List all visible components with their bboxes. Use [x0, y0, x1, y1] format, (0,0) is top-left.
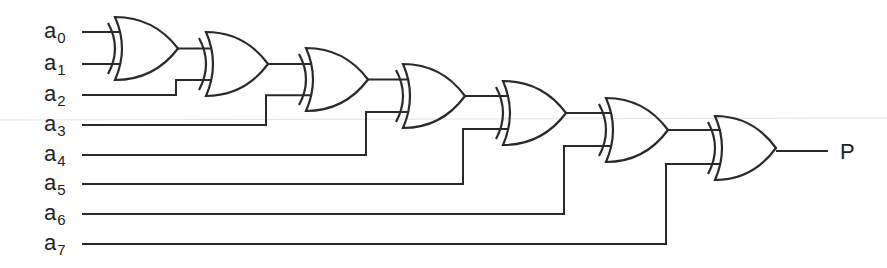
xor-gate-body — [715, 116, 776, 180]
input-subscript: 3 — [57, 122, 65, 139]
wire-a7 — [82, 164, 721, 244]
input-label-a4: a4 — [44, 141, 66, 169]
input-label-a0: a0 — [44, 18, 66, 46]
input-label-a5: a5 — [44, 170, 66, 198]
input-label-a7: a7 — [44, 230, 66, 258]
wire-a6 — [82, 146, 612, 214]
xor-gate-3 — [299, 48, 368, 111]
input-subscript: 7 — [57, 241, 65, 258]
wires — [82, 32, 721, 244]
wire-a5 — [82, 129, 509, 184]
input-subscript: 6 — [57, 211, 65, 228]
input-label-a2: a2 — [44, 81, 66, 109]
input-label-a6: a6 — [44, 200, 66, 228]
xor-back-curve — [396, 70, 403, 122]
xor-gate-body — [503, 81, 566, 145]
input-subscript: 1 — [57, 61, 65, 78]
input-subscript: 4 — [57, 152, 65, 169]
output: P — [776, 139, 855, 164]
xor-gate-body — [403, 64, 465, 128]
xor-back-curve — [108, 23, 115, 74]
wire-a4 — [82, 112, 409, 155]
input-label-a3: a3 — [44, 111, 66, 139]
xor-gate-body — [606, 98, 668, 162]
input-label-a1: a1 — [44, 50, 66, 78]
xor-gate-body — [206, 32, 268, 96]
xor-gate-6 — [599, 98, 668, 162]
scan-artifact-line — [0, 118, 887, 120]
xor-gate-5 — [496, 81, 566, 145]
xor-parity-diagram: a0a1a2a3a4a5a6a7 P — [0, 0, 887, 268]
xor-back-curve — [496, 87, 503, 139]
wire-a2 — [82, 80, 212, 95]
input-labels: a0a1a2a3a4a5a6a7 — [44, 18, 66, 258]
xor-gate-1 — [108, 17, 178, 80]
xor-back-curve — [199, 38, 206, 90]
input-subscript: 0 — [57, 29, 65, 46]
xor-gate-body — [115, 17, 178, 80]
xor-back-curve — [599, 104, 606, 156]
xor-back-curve — [299, 54, 306, 105]
output-label-p: P — [840, 139, 855, 164]
input-subscript: 5 — [57, 181, 65, 198]
xor-gate-4 — [396, 64, 465, 128]
xor-gate-7 — [708, 116, 776, 180]
xor-gate-2 — [199, 32, 268, 96]
input-subscript: 2 — [57, 92, 65, 109]
wire-a3 — [82, 95, 312, 125]
xor-gate-body — [306, 48, 368, 111]
